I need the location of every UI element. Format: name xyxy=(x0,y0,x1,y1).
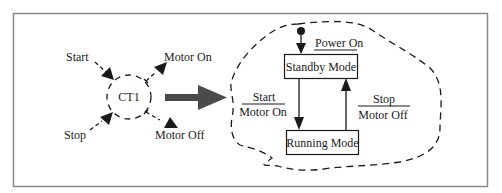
ct1-label: CT1 xyxy=(118,90,139,104)
output-motor-on-label: Motor On xyxy=(164,50,212,64)
transition-motor-on-action: Motor On xyxy=(239,105,287,119)
input-stop-label: Stop xyxy=(64,128,86,142)
transition-motor-off-action: Motor Off xyxy=(358,108,407,122)
input-start-label: Start xyxy=(66,50,89,64)
initial-transition-event: Power On xyxy=(315,36,363,50)
diagram-frame xyxy=(14,14,488,187)
state-running: Running Mode xyxy=(286,131,358,155)
filled-dot-icon xyxy=(297,27,305,35)
state-standby-label: Standby Mode xyxy=(286,60,356,74)
diagram-canvas: CT1 Start Stop Motor On Motor Off Powe xyxy=(0,0,502,193)
transition-stop-event: Stop xyxy=(373,92,395,106)
transition-start-event: Start xyxy=(253,90,276,104)
state-standby: Standby Mode xyxy=(285,55,358,79)
state-running-label: Running Mode xyxy=(286,136,358,150)
output-motor-off-label: Motor Off xyxy=(155,128,204,142)
